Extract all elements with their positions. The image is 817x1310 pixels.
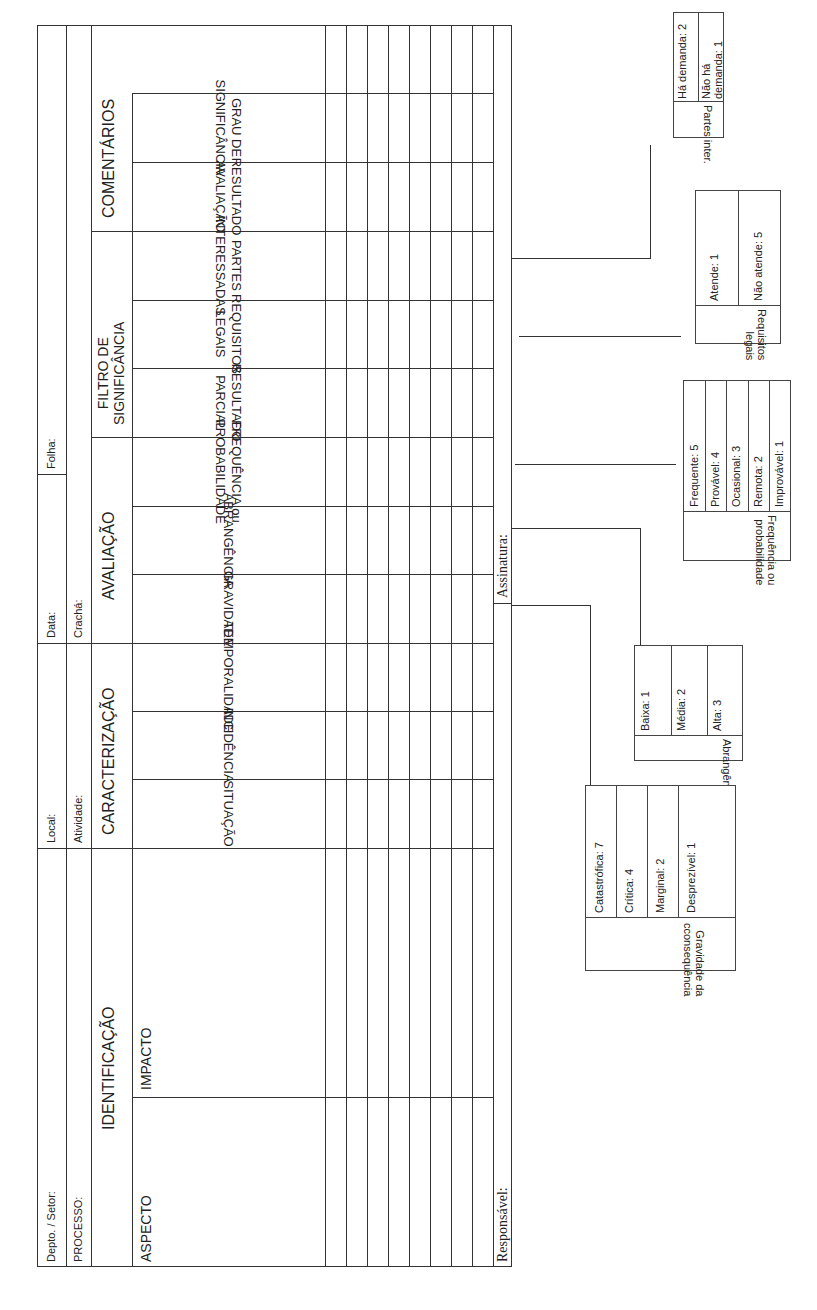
divider [671,646,672,735]
divider [346,25,347,1267]
column-requisitos-legais: REQUISITOS LEGAIS [132,300,325,368]
column-temporalidade: TEMPORALIDADE [132,643,325,711]
divider [493,25,494,1267]
depto-setor-field[interactable]: Depto. / Setor: [45,1191,57,1262]
cracha-field[interactable]: Crachá: [72,599,84,638]
divider [705,381,706,511]
legend-abrangencia: Baixa: 1 Média: 2 Alta: 3 Abrangência [634,645,743,761]
legend-item: Provável: 4 [709,452,721,507]
section-caracterizacao: CARACTERIZAÇÃO [100,687,118,835]
column-partes-interessadas-line1: PARTES [229,240,245,291]
divider [132,1097,493,1098]
local-field[interactable]: Local: [45,814,57,843]
divider [493,603,512,604]
divider [451,25,452,1267]
column-grau-significancia-line1: GRAU DE [229,98,245,157]
legend-title-line2: legais [744,309,756,360]
column-situacao-label: SITUAÇÃO [221,780,237,846]
legend-item: Crítica: 4 [623,869,635,913]
legend-title-line1: Gravidade da [694,923,706,996]
column-resultado-parcial-line2: PARCIAL [213,375,229,430]
connector-line [512,258,651,259]
column-requisitos-legais-line2: LEGAIS [213,311,229,358]
legend-requisitos-legais: Atende: 1 Não atende: 5 Requisitos legai… [695,190,781,344]
divider [91,25,92,1267]
divider [325,25,326,1267]
section-comentarios: COMENTÁRIOS [100,99,118,218]
legend-title-line1: Requisitos [756,309,768,360]
section-filtro-significancia: FILTRO DE SIGNIFICÂNCIA [95,322,127,425]
divider [738,191,739,305]
column-grau-significancia: GRAU DE SIGNIFICÂNCIA [132,93,325,162]
column-partes-interessadas: PARTES INTERESSADAS [132,231,325,300]
legend-title: Partes inter. [702,105,714,164]
legend-frequencia: Frequente: 5 Provável: 4 Ocasional: 3 Re… [683,380,791,561]
data-field[interactable]: Data: [45,612,57,638]
legend-item: Não há demanda: 1 [700,15,724,99]
divider [37,474,66,475]
divider [409,25,410,1267]
legend-item: Baixa: 1 [639,691,651,731]
divider [674,101,723,102]
atividade-field[interactable]: Atividade: [72,795,84,843]
legend-item: Improvável: 1 [773,441,785,507]
divider [616,786,617,917]
legend-item: Frequente: 5 [688,445,700,507]
divider [748,381,749,511]
column-impacto: IMPACTO [138,1028,154,1091]
connector-line [515,464,676,465]
section-avaliacao: AVALIAÇÃO [100,512,118,600]
divider [707,646,708,735]
legend-title: Gravidade da cconsequência [682,923,706,996]
divider [367,25,368,1267]
connector-line [512,528,641,529]
connector-line [512,605,591,606]
column-resultado-parcial: RESULTADO PARCIAL [132,368,325,437]
divider [66,25,67,1267]
folha-field[interactable]: Folha: [45,438,57,469]
section-filtro-line1: FILTRO DE [95,322,111,425]
column-situacao: SITUAÇÃO [132,779,325,848]
legend-item: Há demanda: 2 [676,15,688,99]
responsavel-field[interactable]: Responsável: [495,1187,511,1262]
divider [37,848,493,849]
divider [388,25,389,1267]
column-requisitos-legais-line1: REQUISITOS [229,294,245,374]
divider [696,305,780,306]
divider [769,381,770,511]
legend-item: Ocasional: 3 [730,446,742,507]
divider [678,786,679,917]
divider [684,511,790,512]
divider [647,786,648,917]
legend-title-line1: Frequência ou [766,515,778,585]
column-resultado-parcial-line1: RESULTADO [229,364,245,442]
column-resultado-avaliacao-line1: RESULTADO [229,158,245,236]
legend-item: Média: 2 [675,689,687,731]
divider [726,381,727,511]
column-frequencia: FREQUÊNCIA ou PROBABILIDADE [132,437,325,506]
column-aspecto: ASPECTO [138,1195,154,1262]
connector-line [650,145,651,259]
legend-item: Desprezível: 1 [685,843,697,913]
legend-item: Remota: 2 [752,456,764,507]
legend-item: Alta: 3 [711,700,723,731]
legend-item: Marginal: 2 [654,859,666,913]
section-identificacao: IDENTIFICAÇÃO [100,1006,118,1130]
legend-title: Requisitos legais [744,309,768,360]
connector-line [519,336,681,337]
connector-line [640,528,641,646]
divider [586,917,735,918]
legend-title: Frequência ou probabilidade [754,515,778,585]
legend-title-line2: cconsequência [682,923,694,996]
processo-field[interactable]: PROCESSO: [72,1197,84,1262]
column-resultado-avaliacao: RESULTADO AVALIAÇÃO [132,162,325,231]
legend-item: Não atende: 5 [752,232,764,301]
legend-item: Atende: 1 [708,254,720,301]
assinatura-field[interactable]: Assinatura: [495,534,511,598]
legend-gravidade: Catastrófica: 7 Crítica: 4 Marginal: 2 D… [585,785,736,971]
divider [472,25,473,1267]
connector-line [590,605,591,786]
column-grau-significancia-line2: SIGNIFICÂNCIA [213,79,229,175]
divider [635,735,742,736]
legend-item: Catastrófica: 7 [593,842,605,913]
